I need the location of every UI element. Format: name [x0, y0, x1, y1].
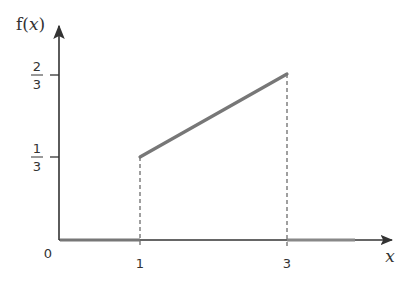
origin-label: 0 [44, 246, 52, 261]
chart-container: 2 3 1 3 0 1 3 f(x) x [0, 0, 403, 283]
x-tick-label-3: 3 [283, 256, 291, 271]
density-line [140, 74, 287, 157]
y-tick-2-3-numerator: 2 [33, 59, 41, 74]
pdf-plot: 2 3 1 3 0 1 3 f(x) x [0, 0, 403, 283]
y-tick-2-3-denominator: 3 [33, 77, 41, 92]
y-axis-title: f(x) [16, 14, 45, 34]
y-tick-1-3-denominator: 3 [33, 159, 41, 174]
x-tick-label-1: 1 [136, 256, 144, 271]
y-tick-1-3-numerator: 1 [33, 141, 41, 156]
x-axis-title: x [385, 246, 395, 266]
